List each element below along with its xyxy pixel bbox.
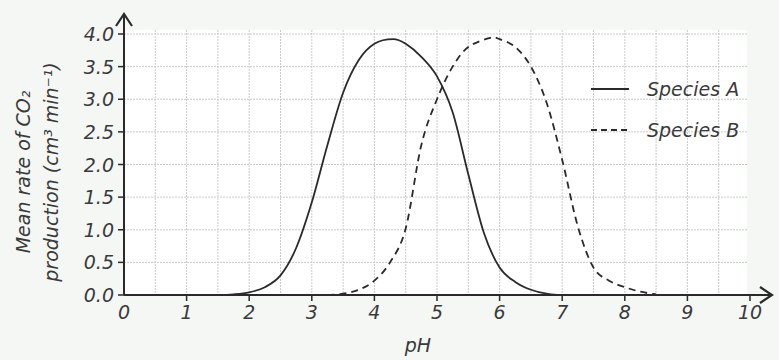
x-tick-label: 6 — [494, 301, 506, 323]
y-tick-label: 0.5 — [84, 251, 114, 273]
x-axis-title: pH — [404, 334, 431, 356]
legend-label-species-a: Species A — [647, 78, 739, 100]
x-tick-label: 0 — [118, 301, 130, 323]
chart: 012345678910 0.00.51.01.52.02.53.03.54.0… — [0, 0, 779, 360]
y-tick-labels: 0.00.51.01.52.02.53.03.54.0 — [84, 23, 114, 306]
legend-label-species-b: Species B — [647, 119, 739, 141]
y-tick-label: 3.0 — [84, 88, 114, 110]
x-tick-label: 8 — [619, 301, 631, 323]
y-tick-label: 2.5 — [84, 121, 114, 143]
x-tick-label: 1 — [181, 301, 193, 323]
y-tick-label: 4.0 — [84, 23, 114, 45]
y-tick-label: 1.0 — [84, 219, 114, 241]
x-tick-label: 5 — [431, 301, 443, 323]
y-axis-title: Mean rate of CO₂ production (cm³ min⁻¹) — [12, 62, 62, 282]
x-tick-label: 7 — [556, 301, 568, 323]
x-tick-label: 3 — [306, 301, 318, 323]
x-tick-label: 9 — [681, 301, 693, 323]
x-tick-label: 2 — [243, 301, 255, 323]
y-tick-label: 2.0 — [84, 154, 114, 176]
y-axis-title-line1: Mean rate of CO₂ — [12, 90, 34, 253]
x-tick-label: 4 — [368, 301, 380, 323]
x-tick-label: 10 — [738, 301, 762, 323]
y-tick-label: 0.0 — [84, 284, 114, 306]
y-tick-label: 1.5 — [84, 186, 114, 208]
y-tick-label: 3.5 — [84, 56, 114, 78]
y-axis-title-line2: production (cm³ min⁻¹) — [40, 62, 62, 282]
x-tick-labels: 012345678910 — [118, 301, 762, 323]
